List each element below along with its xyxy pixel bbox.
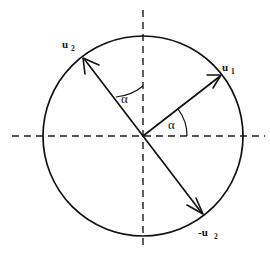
vector-negative-u2-shaft bbox=[143, 136, 201, 212]
vector-u2 bbox=[83, 58, 143, 136]
label-u1: u 1 bbox=[222, 61, 235, 76]
label-negative-u2-subscript: 2 bbox=[214, 232, 218, 241]
label-u1-base: u bbox=[222, 61, 228, 73]
label-negative-u2-base: -u bbox=[198, 226, 208, 238]
angle-label-alpha-u1: α bbox=[168, 117, 175, 132]
angle-arc-u1-horizontal bbox=[178, 109, 187, 136]
vector-diagram-canvas: u 1 u 2 -u 2 α α bbox=[0, 0, 270, 253]
label-u1-subscript: 1 bbox=[231, 67, 235, 76]
label-u2: u 2 bbox=[62, 38, 75, 53]
vector-u2-shaft bbox=[85, 60, 143, 136]
label-negative-u2: -u 2 bbox=[198, 226, 218, 241]
vector-u1-shaft bbox=[143, 77, 219, 136]
angle-label-alpha-u2: α bbox=[121, 91, 128, 106]
vector-u1 bbox=[143, 75, 221, 136]
label-u2-subscript: 2 bbox=[71, 44, 75, 53]
vector-negative-u2 bbox=[143, 136, 203, 214]
label-u2-base: u bbox=[62, 38, 68, 50]
figure-container: u 1 u 2 -u 2 α α bbox=[0, 0, 270, 253]
